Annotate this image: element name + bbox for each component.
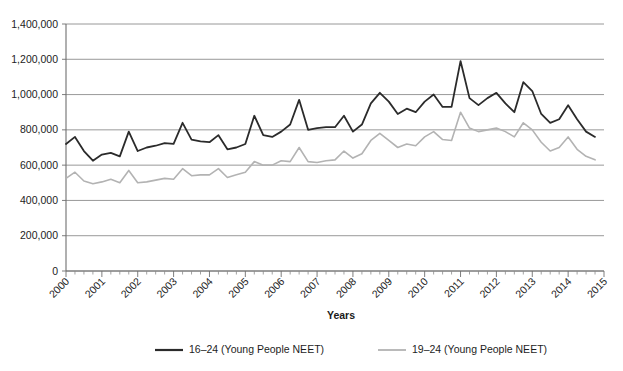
x-tick-label: 2010 — [405, 275, 430, 300]
x-axis-title: Years — [327, 309, 355, 321]
y-tick-label: 600,000 — [20, 159, 58, 171]
y-tick-label: 1,400,000 — [11, 18, 58, 30]
x-tick-label: 2002 — [118, 275, 143, 300]
y-axis-group: 0200,000400,000600,000800,0001,000,0001,… — [11, 18, 66, 277]
y-tick-label: 800,000 — [20, 123, 58, 135]
x-tick-label: 2009 — [369, 275, 394, 300]
chart-container: 0200,000400,000600,000800,0001,000,0001,… — [0, 0, 623, 371]
x-tick-label: 2008 — [333, 275, 358, 300]
x-tick-label: 2012 — [477, 275, 502, 300]
y-tick-label: 200,000 — [20, 229, 58, 241]
x-tick-label: 2015 — [584, 275, 609, 300]
x-tick-label: 2001 — [82, 275, 107, 300]
x-tick-label: 2004 — [190, 275, 215, 300]
y-tick-label: 0 — [52, 265, 58, 277]
y-tick-label: 1,000,000 — [11, 88, 58, 100]
x-axis-group: 2000200120022003200420052006200720082009… — [46, 271, 609, 300]
y-tick-label: 1,200,000 — [11, 53, 58, 65]
x-tick-label: 2006 — [262, 275, 287, 300]
series-line-1 — [66, 61, 595, 161]
x-tick-label: 2013 — [513, 275, 538, 300]
x-tick-label: 2007 — [297, 275, 322, 300]
x-tick-label: 2005 — [226, 275, 251, 300]
x-axis-title-group: Years — [327, 309, 355, 321]
neet-line-chart: 0200,000400,000600,000800,0001,000,0001,… — [0, 0, 623, 371]
legend-group: 16–24 (Young People NEET)19–24 (Young Pe… — [155, 343, 547, 355]
x-tick-label: 2000 — [46, 275, 71, 300]
x-tick-label: 2003 — [154, 275, 179, 300]
x-tick-label: 2014 — [549, 275, 574, 300]
legend-label-2: 19–24 (Young People NEET) — [412, 343, 547, 355]
x-tick-label: 2011 — [441, 275, 466, 300]
legend-label-1: 16–24 (Young People NEET) — [189, 343, 324, 355]
y-tick-label: 400,000 — [20, 194, 58, 206]
